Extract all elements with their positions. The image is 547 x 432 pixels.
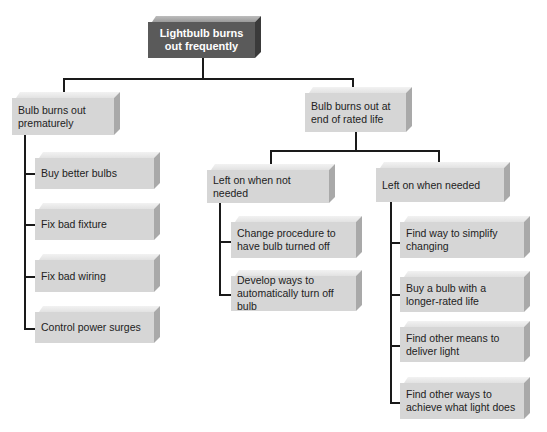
connector-needed-tick-2	[390, 294, 400, 296]
node-bulb-burns-out-end-of-life: Bulb burns out at end of rated life	[305, 93, 406, 132]
connector-needed-tick-1	[390, 242, 400, 244]
connector-level2-horizontal	[270, 150, 439, 152]
node-label: Fix bad fixture	[41, 218, 107, 231]
node-control-power-surges: Control power surges	[35, 312, 154, 343]
connector-not-needed-tick-1	[219, 241, 231, 243]
node-label: Buy a bulb with a longer-rated life	[406, 282, 518, 308]
node-find-other-ways: Find other ways to achieve what light do…	[400, 383, 524, 419]
connector-needed-tick-3	[390, 345, 400, 347]
connector-premature-tick-2	[24, 224, 35, 226]
root-node: Lightbulb burns out frequently	[148, 22, 255, 58]
node-fix-bad-fixture: Fix bad fixture	[35, 209, 154, 240]
node-left-on-when-needed: Left on when needed	[376, 168, 504, 202]
node-find-other-means: Find other means to deliver light	[400, 327, 524, 362]
connector-not-needed-vertical	[219, 203, 221, 295]
node-label: Develop ways to automatically turn off b…	[237, 274, 350, 313]
connector-root-down	[202, 58, 204, 79]
node-bulb-burns-out-prematurely: Bulb burns out prematurely	[12, 98, 114, 135]
node-change-procedure: Change procedure to have bulb turned off	[231, 222, 356, 258]
node-label: Bulb burns out prematurely	[18, 104, 108, 130]
node-find-way-to-simplify: Find way to simplify changing	[400, 222, 524, 258]
connector-premature-tick-1	[24, 173, 35, 175]
node-label: Left on when needed	[382, 179, 480, 192]
node-label: Change procedure to have bulb turned off	[237, 227, 350, 253]
connector-premature-tick-3	[24, 276, 35, 278]
node-buy-better-bulbs: Buy better bulbs	[35, 158, 154, 189]
connector-end-of-life-down	[355, 132, 357, 151]
connector-premature-vertical	[24, 135, 26, 329]
node-label: Bulb burns out at end of rated life	[311, 100, 400, 126]
connector-needed-tick-4	[390, 402, 400, 404]
node-buy-longer-rated-bulb: Buy a bulb with a longer-rated life	[400, 277, 524, 312]
node-develop-ways: Develop ways to automatically turn off b…	[231, 276, 356, 311]
node-fix-bad-wiring: Fix bad wiring	[35, 260, 154, 292]
node-label: Left on when not needed	[213, 174, 323, 200]
node-left-on-when-not-needed: Left on when not needed	[207, 170, 329, 203]
node-label: Buy better bulbs	[41, 167, 117, 180]
connector-not-needed-tick-2	[219, 294, 231, 296]
node-label: Find other means to deliver light	[406, 332, 518, 358]
node-label: Find way to simplify changing	[406, 227, 518, 253]
connector-needed-vertical	[390, 202, 392, 404]
node-label: Control power surges	[41, 321, 141, 334]
node-label: Fix bad wiring	[41, 270, 106, 283]
root-node-label: Lightbulb burns out frequently	[154, 27, 249, 53]
connector-premature-tick-4	[24, 328, 35, 330]
connector-level1-horizontal	[63, 78, 354, 80]
node-label: Find other ways to achieve what light do…	[406, 388, 518, 414]
